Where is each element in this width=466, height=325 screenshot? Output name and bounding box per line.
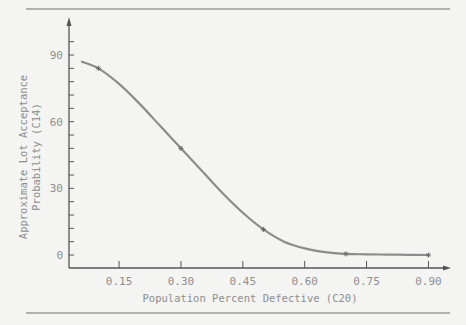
- data-point-star-icon: [426, 253, 431, 258]
- data-point-star-icon: [261, 227, 266, 232]
- x-tick-label: 0.45: [230, 275, 257, 288]
- oc-curve-line: [82, 62, 429, 255]
- y-axis: 0306090: [50, 17, 74, 268]
- y-axis-title: Approximate Lot AcceptanceProbability (C…: [17, 75, 42, 239]
- x-axis-arrow-icon: [443, 266, 451, 271]
- data-point-star-icon: [178, 146, 183, 151]
- y-tick-label: 90: [50, 49, 63, 62]
- y-axis-title-line: Approximate Lot Acceptance: [17, 75, 29, 239]
- y-axis-title-line: Probability (C14): [30, 103, 42, 210]
- y-axis-arrow-icon: [67, 17, 72, 26]
- x-tick-label: 0.15: [106, 275, 133, 288]
- data-point-star-icon: [96, 66, 101, 71]
- x-tick-label: 0.90: [415, 275, 442, 288]
- plot-area: [82, 62, 431, 258]
- data-point-star-icon: [343, 251, 348, 256]
- x-tick-label: 0.60: [291, 275, 318, 288]
- x-tick-label: 0.30: [168, 275, 195, 288]
- y-tick-label: 60: [50, 116, 63, 129]
- x-axis-title: Population Percent Defective (C20): [143, 292, 358, 304]
- x-axis: 0.150.300.450.600.750.90: [69, 261, 451, 288]
- oc-curve-chart: 0306090 0.150.300.450.600.750.90 Approxi…: [0, 0, 466, 325]
- x-tick-label: 0.75: [353, 275, 380, 288]
- y-tick-label: 30: [50, 182, 63, 195]
- y-tick-label: 0: [56, 249, 63, 262]
